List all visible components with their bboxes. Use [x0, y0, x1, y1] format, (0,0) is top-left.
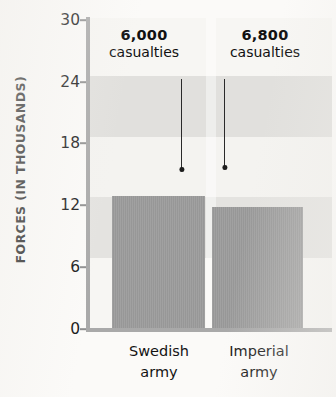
x-label-imperial-line1: Imperial: [229, 343, 288, 359]
leader-line-swedish: [181, 79, 182, 169]
bar-swedish-army: [112, 196, 205, 329]
x-label-imperial-army: Imperial army: [200, 341, 318, 383]
y-axis-title-text: FORCES (IN THOUSANDS): [13, 76, 28, 263]
annotation-value-imperial: 6,800: [206, 28, 324, 43]
y-tick-label-12: 12: [46, 196, 80, 214]
bar-imperial-army: [212, 207, 303, 329]
annotation-value-swedish: 6,000: [88, 28, 200, 43]
annotation-swedish-casualties: 6,000 casualties: [88, 28, 200, 62]
leader-dot-imperial: [222, 165, 227, 170]
annotation-imperial-casualties: 6,800 casualties: [206, 28, 324, 62]
x-label-swedish-line1: Swedish: [129, 343, 189, 359]
x-label-imperial-line2: army: [200, 362, 318, 383]
leader-line-imperial: [224, 79, 225, 167]
x-axis-baseline: [86, 328, 332, 332]
y-tick-label-24: 24: [46, 73, 80, 91]
annotation-unit-swedish: casualties: [88, 43, 200, 62]
y-tick-label-6: 6: [46, 258, 80, 276]
y-tick-label-30: 30: [46, 11, 80, 29]
y-axis-title: FORCES (IN THOUSANDS): [2, 0, 38, 340]
y-tick-labels: 30 24 18 12 6 0: [40, 0, 80, 397]
y-tick-label-0: 0: [46, 320, 80, 338]
y-axis-spine: [86, 17, 90, 332]
leader-dot-swedish: [179, 167, 184, 172]
annotation-unit-imperial: casualties: [206, 43, 324, 62]
chart-figure: 30 24 18 12 6 0 FORCES (IN THOUSANDS) 6,…: [0, 0, 336, 397]
y-tick-label-18: 18: [46, 134, 80, 152]
